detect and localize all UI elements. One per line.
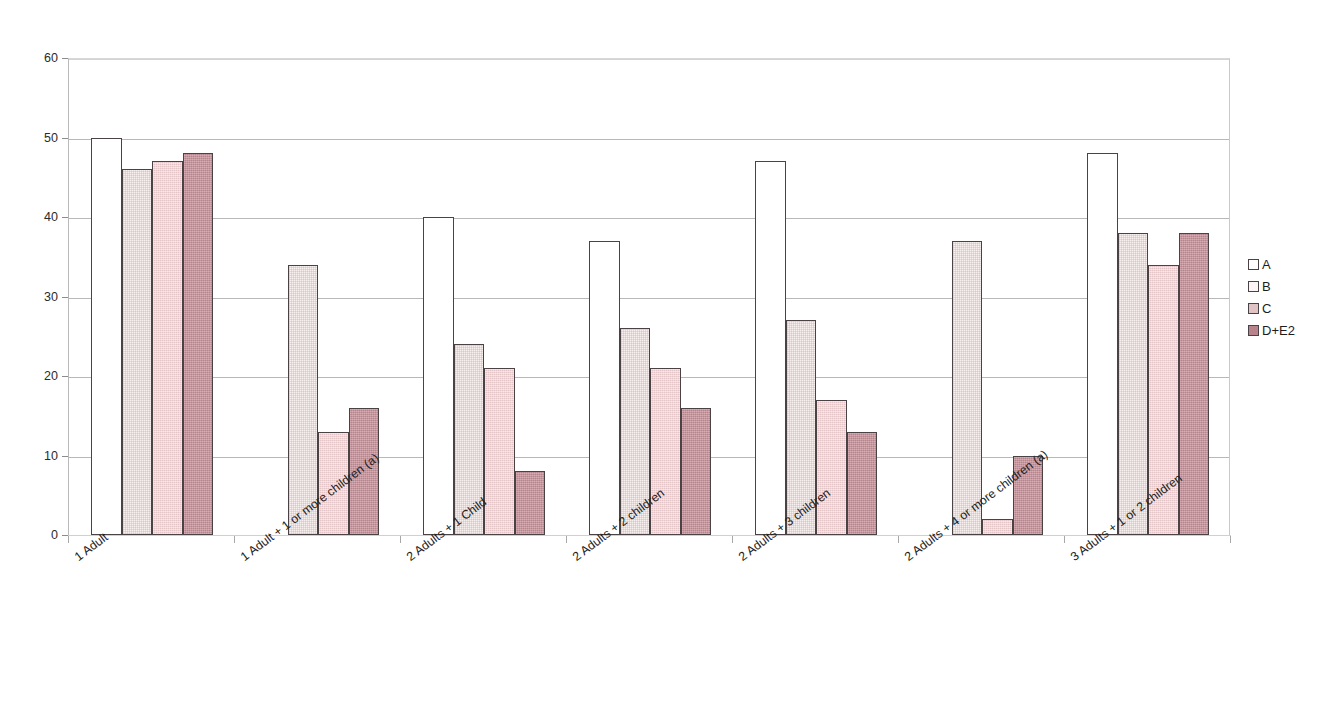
y-axis-tick-label: 60 (18, 52, 58, 65)
bar-c[interactable] (816, 400, 847, 535)
bar-a[interactable] (91, 138, 122, 536)
y-axis-tick-label: 40 (18, 211, 58, 224)
y-axis-tick-mark (62, 138, 68, 139)
x-axis-tick-mark (898, 536, 899, 543)
x-axis-tick-mark (732, 536, 733, 543)
y-axis-tick-mark (62, 58, 68, 59)
legend-item-d-e2[interactable]: D+E2 (1248, 319, 1334, 341)
bar-c[interactable] (484, 368, 515, 535)
legend-swatch-icon (1248, 303, 1259, 314)
plot-area (68, 58, 1230, 535)
bar-a[interactable] (1087, 153, 1118, 535)
bar-b[interactable] (952, 241, 983, 535)
x-axis-tick-mark (1064, 536, 1065, 543)
y-axis: 0102030405060 (0, 0, 58, 710)
y-axis-tick-label: 20 (18, 370, 58, 383)
bar-d-e2[interactable] (1179, 233, 1210, 535)
y-axis-tick-label: 30 (18, 290, 58, 303)
x-axis-tick-mark (400, 536, 401, 543)
legend-swatch-icon (1248, 325, 1259, 336)
bar-b[interactable] (1118, 233, 1149, 535)
bar-a[interactable] (755, 161, 786, 535)
legend-item-a[interactable]: A (1248, 253, 1334, 275)
legend-item-label: D+E2 (1262, 324, 1295, 337)
y-axis-tick-label: 50 (18, 131, 58, 144)
y-axis-tick-label: 10 (18, 449, 58, 462)
y-axis-tick-mark (62, 297, 68, 298)
bar-c[interactable] (982, 519, 1013, 535)
bar-d-e2[interactable] (183, 153, 214, 535)
bar-d-e2[interactable] (681, 408, 712, 535)
bar-chart: 0102030405060 ABCD+E2 1 Adult1 Adult + 1… (0, 0, 1340, 710)
bar-a[interactable] (589, 241, 620, 535)
x-axis-tick-mark (1230, 536, 1231, 543)
y-axis-tick-label: 0 (18, 529, 58, 542)
legend-swatch-icon (1248, 281, 1259, 292)
bar-group (567, 59, 733, 535)
chart-legend: ABCD+E2 (1248, 253, 1334, 341)
bar-d-e2[interactable] (847, 432, 878, 535)
y-axis-tick-mark (62, 217, 68, 218)
legend-item-c[interactable]: C (1248, 297, 1334, 319)
legend-item-b[interactable]: B (1248, 275, 1334, 297)
x-axis-tick-mark (68, 536, 69, 543)
bar-group (401, 59, 567, 535)
x-axis-tick-mark (566, 536, 567, 543)
x-axis-tick-mark (234, 536, 235, 543)
legend-item-label: A (1262, 258, 1271, 271)
bar-group (1065, 59, 1231, 535)
bar-c[interactable] (650, 368, 681, 535)
bar-group (733, 59, 899, 535)
y-axis-tick-mark (62, 456, 68, 457)
x-axis-baseline (68, 535, 1231, 536)
legend-item-label: C (1262, 302, 1271, 315)
bar-a[interactable] (423, 217, 454, 535)
legend-swatch-icon (1248, 259, 1259, 270)
bar-b[interactable] (122, 169, 153, 535)
bar-c[interactable] (152, 161, 183, 535)
y-axis-tick-mark (62, 376, 68, 377)
legend-item-label: B (1262, 280, 1271, 293)
bar-group (69, 59, 235, 535)
bar-d-e2[interactable] (515, 471, 546, 535)
